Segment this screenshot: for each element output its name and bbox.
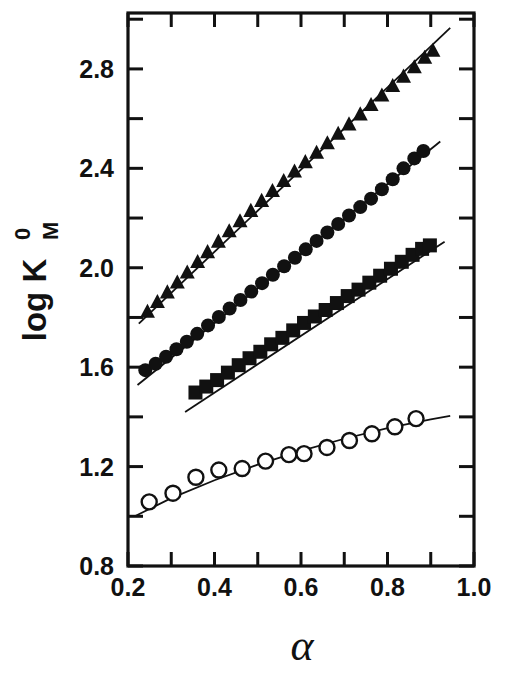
x-axis-ticks	[128, 13, 474, 566]
data-point-circles-filled	[266, 268, 280, 282]
data-point-circles-open	[165, 486, 180, 501]
data-point-circles-filled	[342, 209, 356, 223]
data-point-circles-filled	[397, 161, 411, 175]
x-axis-title: α	[290, 621, 314, 670]
y-tick-label: 0.8	[79, 552, 114, 580]
data-point-circles-filled	[386, 172, 400, 186]
axis-frame-rect	[128, 13, 474, 566]
data-point-circles-open	[387, 419, 402, 434]
data-point-circles-open	[281, 447, 296, 462]
x-tick-label: 0.4	[197, 573, 232, 601]
y-axis-title-superscript: 0	[10, 228, 35, 240]
series-markers	[138, 43, 440, 510]
x-tick-label: 1.0	[457, 573, 492, 601]
chart-canvas: 0.20.40.60.81.0 0.81.21.62.02.42.8 α log…	[0, 0, 509, 676]
data-point-circles-open	[188, 470, 203, 485]
data-point-circles-open	[409, 411, 424, 426]
data-point-squares-filled	[423, 238, 437, 252]
data-point-circles-open	[211, 463, 226, 478]
data-point-circles-open	[342, 433, 357, 448]
data-point-circles-filled	[364, 192, 378, 206]
plot-frame	[128, 13, 474, 566]
y-axis-title: log K M 0	[10, 222, 63, 342]
x-tick-label: 0.2	[111, 573, 146, 601]
y-axis-tick-labels: 0.81.21.62.02.42.8	[79, 55, 114, 580]
y-tick-label: 2.0	[79, 254, 114, 282]
data-point-circles-filled	[375, 182, 389, 196]
x-axis-tick-labels: 0.20.40.60.81.0	[111, 573, 492, 601]
x-tick-label: 0.8	[370, 573, 405, 601]
data-point-circles-open	[297, 446, 312, 461]
figure-container: 0.20.40.60.81.0 0.81.21.62.02.42.8 α log…	[0, 0, 509, 676]
y-axis-title-subscript: M	[38, 222, 63, 240]
data-point-circles-open	[235, 461, 250, 476]
data-point-circles-filled	[416, 144, 430, 158]
y-tick-label: 2.4	[79, 154, 114, 182]
x-tick-label: 0.6	[284, 573, 319, 601]
series-fit-lines	[136, 28, 450, 516]
data-point-circles-open	[142, 494, 157, 509]
y-tick-label: 1.2	[79, 453, 114, 481]
fit-line-circles-open	[136, 416, 450, 516]
data-point-circles-open	[319, 440, 334, 455]
data-point-circles-open	[364, 426, 379, 441]
y-axis-ticks	[128, 19, 474, 566]
y-axis-title-main: log K	[16, 259, 53, 342]
data-point-circles-open	[258, 454, 273, 469]
y-tick-label: 1.6	[79, 353, 114, 381]
y-tick-label: 2.8	[79, 55, 114, 83]
